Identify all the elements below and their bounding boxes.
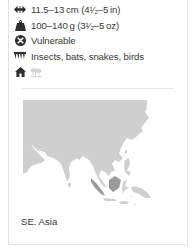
house-icon bbox=[14, 67, 26, 78]
distribution-map bbox=[23, 100, 151, 212]
species-facts: 11.5–13 cm (4¹⁄₂–5 in) 100–140 g (3¹⁄₂–5… bbox=[14, 2, 184, 79]
region-label: SE. Asia bbox=[21, 216, 57, 227]
forest-icon bbox=[30, 67, 42, 78]
section-divider bbox=[22, 88, 174, 89]
length-arrows-icon bbox=[14, 4, 26, 15]
fact-length-text: 11.5–13 cm (4¹⁄₂–5 in) bbox=[31, 4, 120, 15]
weight-icon bbox=[14, 20, 26, 31]
fact-status-text: Vulnerable bbox=[31, 35, 76, 46]
fact-weight-text: 100–140 g (3¹⁄₂–5 oz) bbox=[31, 20, 119, 31]
fact-diet-text: Insects, bats, snakes, birds bbox=[31, 51, 144, 62]
habitat-icons bbox=[14, 65, 184, 79]
diet-teeth-icon bbox=[14, 51, 26, 62]
fact-status: Vulnerable bbox=[14, 33, 184, 49]
fact-diet: Insects, bats, snakes, birds bbox=[14, 49, 184, 65]
fact-weight: 100–140 g (3¹⁄₂–5 oz) bbox=[14, 18, 184, 34]
fact-length: 11.5–13 cm (4¹⁄₂–5 in) bbox=[14, 2, 184, 18]
status-x-circle-icon bbox=[14, 35, 26, 46]
asia-landmass bbox=[23, 100, 149, 188]
